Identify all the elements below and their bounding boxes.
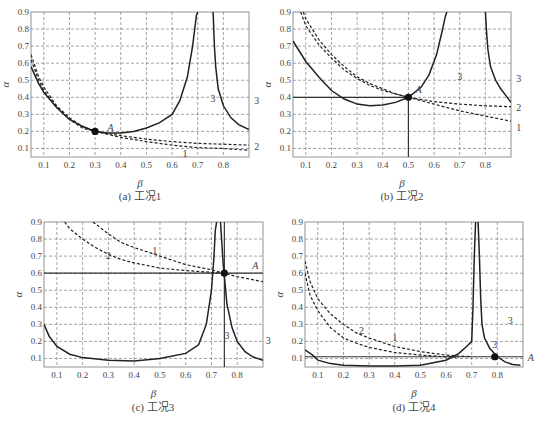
y-axis-label: α	[273, 291, 285, 297]
svg-text:0.4: 0.4	[377, 160, 389, 170]
curve-3	[213, 12, 249, 130]
svg-text:0.1: 0.1	[280, 143, 291, 153]
curve-label: A	[251, 260, 259, 271]
chart-panel-b: 0.10.20.30.40.50.60.70.80.10.20.30.40.50…	[261, 7, 521, 189]
chart-panel-d: 0.10.20.30.40.50.60.70.80.10.20.30.40.50…	[273, 217, 535, 399]
svg-text:0.9: 0.9	[31, 217, 43, 227]
svg-text:0.7: 0.7	[292, 251, 304, 261]
svg-text:0.3: 0.3	[351, 160, 363, 170]
svg-text:0.4: 0.4	[389, 370, 401, 380]
curve-label: 3	[266, 335, 271, 346]
svg-text:0.7: 0.7	[18, 41, 30, 51]
svg-text:0.8: 0.8	[18, 24, 30, 34]
point-A	[92, 128, 99, 135]
curve-label: 3	[224, 330, 229, 341]
curve-label: A	[106, 122, 114, 133]
svg-text:0.2: 0.2	[77, 370, 88, 380]
svg-text:0.4: 0.4	[115, 160, 127, 170]
svg-text:0.8: 0.8	[492, 370, 504, 380]
curve-label: 2	[254, 141, 259, 152]
curve-3	[478, 222, 520, 365]
curve-label: 3	[211, 93, 216, 104]
svg-text:0.8: 0.8	[218, 160, 230, 170]
caption-b: (b) 工况2	[302, 187, 502, 203]
svg-text:0.9: 0.9	[18, 7, 30, 17]
svg-text:0.2: 0.2	[64, 160, 75, 170]
svg-text:0.1: 0.1	[312, 370, 323, 380]
svg-text:0.5: 0.5	[415, 370, 427, 380]
svg-text:0.2: 0.2	[292, 336, 303, 346]
y-axis-label: α	[12, 291, 24, 297]
svg-text:0.4: 0.4	[129, 370, 141, 380]
svg-text:0.5: 0.5	[18, 75, 30, 85]
curve-3	[293, 12, 447, 106]
svg-text:0.3: 0.3	[18, 109, 30, 119]
svg-text:0.5: 0.5	[403, 160, 415, 170]
plot-frame	[44, 222, 263, 367]
svg-text:0.7: 0.7	[206, 370, 218, 380]
svg-text:0.8: 0.8	[480, 160, 492, 170]
svg-text:0.4: 0.4	[18, 92, 30, 102]
svg-text:0.6: 0.6	[280, 58, 292, 68]
svg-text:0.7: 0.7	[192, 160, 204, 170]
y-axis-label: α	[261, 81, 273, 87]
svg-text:0.2: 0.2	[18, 126, 29, 136]
svg-text:0.5: 0.5	[31, 285, 43, 295]
svg-text:0.6: 0.6	[18, 58, 30, 68]
curve-1	[303, 12, 511, 121]
svg-text:0.3: 0.3	[89, 160, 101, 170]
curve-label: 1	[182, 148, 187, 159]
svg-text:0.3: 0.3	[103, 370, 115, 380]
caption-a: (a) 工况1	[40, 187, 240, 203]
svg-text:0.3: 0.3	[280, 109, 292, 119]
svg-text:0.6: 0.6	[428, 160, 440, 170]
svg-text:0.7: 0.7	[280, 41, 292, 51]
curve-label: 2	[359, 325, 364, 336]
svg-text:0.5: 0.5	[280, 75, 292, 85]
curve-2	[305, 273, 459, 357]
svg-text:0.1: 0.1	[31, 353, 42, 363]
svg-text:0.6: 0.6	[440, 370, 452, 380]
grid	[44, 222, 263, 367]
caption-c: (c) 工况3	[53, 398, 253, 414]
svg-text:0.2: 0.2	[280, 126, 291, 136]
svg-text:0.5: 0.5	[292, 285, 304, 295]
plot-frame	[305, 222, 523, 367]
curve-label: A	[415, 84, 423, 95]
curve-3	[31, 12, 198, 133]
figure: 0.10.20.30.40.50.60.70.80.10.20.30.40.50…	[0, 0, 538, 429]
curve-label: 2	[516, 102, 521, 113]
svg-text:0.4: 0.4	[280, 92, 292, 102]
svg-text:0.8: 0.8	[31, 234, 43, 244]
svg-text:0.1: 0.1	[18, 143, 29, 153]
svg-text:0.3: 0.3	[292, 319, 304, 329]
svg-text:0.6: 0.6	[166, 160, 178, 170]
curve-label: 1	[516, 122, 521, 133]
svg-text:0.9: 0.9	[280, 7, 292, 17]
curve-label: 1	[392, 332, 397, 343]
svg-text:0.8: 0.8	[292, 234, 304, 244]
svg-text:0.3: 0.3	[363, 370, 375, 380]
curve-label: 3	[516, 73, 521, 84]
svg-text:0.1: 0.1	[300, 160, 311, 170]
svg-text:0.2: 0.2	[338, 370, 349, 380]
svg-text:0.4: 0.4	[31, 302, 43, 312]
chart-panel-a: 0.10.20.30.40.50.60.70.80.10.20.30.40.50…	[0, 7, 259, 189]
grid	[31, 12, 249, 157]
svg-text:0.5: 0.5	[141, 160, 153, 170]
point-A	[405, 94, 412, 101]
svg-text:0.6: 0.6	[292, 268, 304, 278]
curve-2	[301, 12, 511, 107]
svg-text:0.7: 0.7	[466, 370, 478, 380]
svg-text:0.2: 0.2	[326, 160, 337, 170]
point-A	[221, 270, 228, 277]
svg-text:0.1: 0.1	[38, 160, 49, 170]
svg-text:0.1: 0.1	[292, 353, 303, 363]
curve-3	[485, 12, 511, 102]
svg-text:0.2: 0.2	[31, 336, 42, 346]
curve-label: 3	[254, 95, 259, 106]
chart-panel-c: 0.10.20.30.40.50.60.70.80.10.20.30.40.50…	[12, 217, 271, 399]
svg-text:0.3: 0.3	[31, 319, 43, 329]
grid	[305, 222, 523, 367]
svg-text:0.8: 0.8	[280, 24, 292, 34]
